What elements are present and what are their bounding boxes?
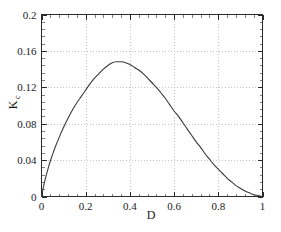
- y-tick-label: 0.04: [17, 154, 37, 166]
- x-tick-label: 0.6: [167, 200, 181, 212]
- line-chart-plot: 00.20.40.60.81 00.040.080.120.160.2 D K …: [0, 0, 281, 232]
- y-axis-title: K: [6, 100, 20, 109]
- y-axis-title-subscript: c: [13, 95, 22, 99]
- x-tick-label: 0.2: [79, 200, 93, 212]
- x-axis-title: D: [147, 208, 156, 222]
- x-tick-label: 0.4: [123, 200, 137, 212]
- y-tick-label: 0.08: [17, 118, 37, 130]
- x-tick-label: 1: [260, 200, 266, 212]
- x-tick-label: 0: [39, 200, 45, 212]
- y-tick-label: 0.16: [17, 45, 37, 57]
- chart-figure: 00.20.40.60.81 00.040.080.120.160.2 D K …: [0, 0, 281, 232]
- y-tick-label: 0: [31, 191, 37, 203]
- y-tick-label: 0.2: [23, 9, 37, 21]
- y-tick-label: 0.12: [17, 81, 36, 93]
- x-tick-label: 0.8: [211, 200, 225, 212]
